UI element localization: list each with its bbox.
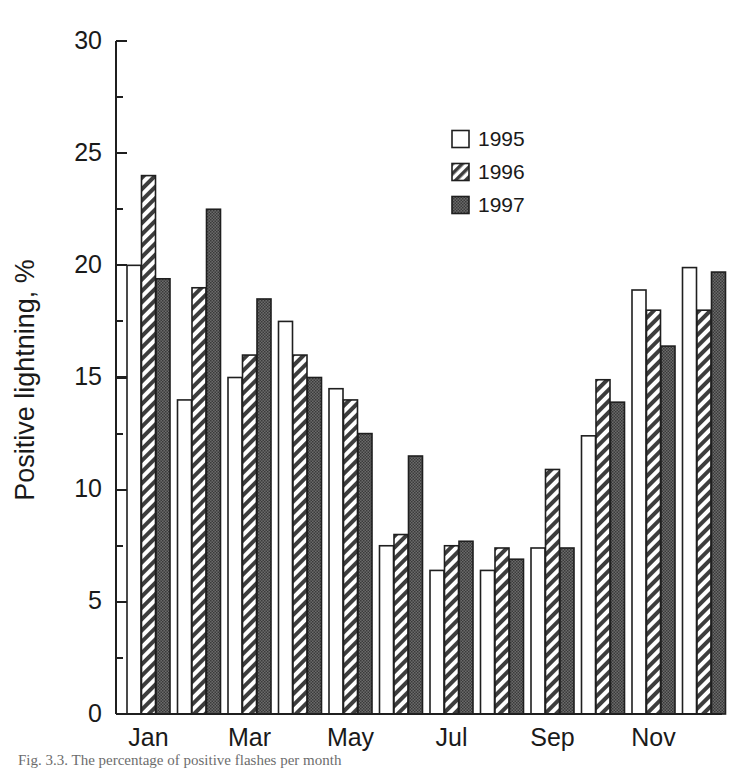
chart-legend: 199519961997 — [452, 127, 525, 216]
bar-sep-1996 — [546, 469, 560, 714]
bar-nov-1996 — [647, 310, 661, 714]
y-tick-label: 20 — [74, 250, 102, 278]
legend-swatch-1997 — [452, 197, 469, 214]
bar-oct-1996 — [596, 380, 610, 714]
x-tick-label-may: May — [327, 723, 375, 751]
bar-feb-1996 — [192, 288, 206, 714]
bar-jul-1996 — [445, 546, 459, 714]
bar-aug-1996 — [495, 548, 509, 714]
legend-label-1996: 1996 — [478, 160, 525, 183]
bar-feb-1997 — [207, 209, 221, 714]
y-tick-label: 25 — [74, 138, 102, 166]
bar-jan-1996 — [142, 176, 156, 714]
figure-caption: Fig. 3.3. The percentage of positive fla… — [18, 752, 718, 772]
bar-sep-1997 — [560, 548, 574, 714]
bar-jun-1995 — [380, 546, 394, 714]
bar-nov-1995 — [632, 290, 646, 714]
y-ticks-layer: 051015202530 — [74, 26, 127, 727]
bar-aug-1997 — [510, 559, 524, 714]
y-axis-title: Positive lightning, % — [10, 259, 40, 501]
y-tick-label: 15 — [74, 362, 102, 390]
legend-swatch-1995 — [452, 131, 469, 148]
bar-jan-1997 — [156, 279, 170, 714]
legend-label-1995: 1995 — [478, 127, 525, 150]
bar-dec-1995 — [683, 268, 697, 714]
legend-swatch-1996 — [452, 164, 469, 181]
x-tick-label-jul: Jul — [436, 723, 468, 751]
x-tick-label-mar: Mar — [228, 723, 271, 751]
y-tick-label: 30 — [74, 26, 102, 54]
bar-jan-1995 — [127, 265, 141, 714]
bar-apr-1997 — [308, 378, 322, 715]
x-ticks-layer: JanMarMayJulSepNov — [128, 723, 676, 751]
bar-oct-1995 — [582, 436, 596, 714]
bar-mar-1995 — [228, 378, 242, 715]
x-tick-label-nov: Nov — [631, 723, 676, 751]
bar-may-1995 — [329, 389, 343, 714]
x-tick-label-sep: Sep — [530, 723, 574, 751]
bar-aug-1995 — [481, 570, 495, 714]
bar-mar-1996 — [243, 355, 257, 714]
bar-sep-1995 — [531, 548, 545, 714]
bars-layer — [127, 176, 726, 714]
y-tick-label: 0 — [88, 699, 102, 727]
bar-jun-1996 — [394, 535, 408, 714]
bar-dec-1996 — [697, 310, 711, 714]
bar-dec-1997 — [712, 272, 726, 714]
bar-oct-1997 — [611, 402, 625, 714]
figure-container: 051015202530 JanMarMayJulSepNov Positive… — [0, 0, 737, 773]
legend-label-1997: 1997 — [478, 193, 525, 216]
bar-mar-1997 — [257, 299, 271, 714]
y-tick-label: 5 — [88, 586, 102, 614]
bar-apr-1996 — [293, 355, 307, 714]
bar-jun-1997 — [409, 456, 423, 714]
bar-jul-1995 — [430, 570, 444, 714]
bar-feb-1995 — [178, 400, 192, 714]
bar-nov-1997 — [661, 346, 675, 714]
bar-apr-1995 — [279, 321, 293, 714]
bar-may-1996 — [344, 400, 358, 714]
bar-chart: 051015202530 JanMarMayJulSepNov Positive… — [0, 0, 737, 773]
bar-jul-1997 — [459, 541, 473, 714]
x-tick-label-jan: Jan — [128, 723, 168, 751]
bar-may-1997 — [358, 434, 372, 714]
y-tick-label: 10 — [74, 474, 102, 502]
